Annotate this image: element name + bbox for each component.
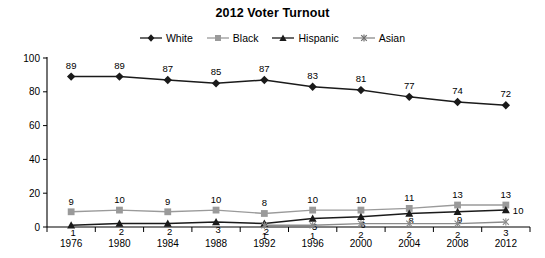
data-label: 9 [69, 196, 74, 207]
data-label: 3 [215, 224, 220, 235]
data-point-diamond [405, 93, 413, 101]
data-label: 10 [307, 194, 318, 205]
data-point-square [309, 207, 316, 214]
data-point-square [213, 207, 220, 214]
x-tick-label: 2004 [398, 238, 421, 249]
data-label: 13 [501, 189, 512, 200]
data-label: 9 [165, 196, 170, 207]
data-point-diamond [502, 101, 510, 109]
data-point-square [164, 208, 171, 215]
data-label: 10 [114, 194, 125, 205]
data-point-diamond [357, 86, 365, 94]
y-tick-label: 40 [29, 154, 41, 165]
data-label: 2 [358, 229, 363, 240]
data-label: 10 [356, 194, 367, 205]
x-tick-label: 1988 [205, 238, 228, 249]
data-point-diamond [212, 79, 220, 87]
data-point-diamond [453, 98, 461, 106]
data-point-diamond [308, 83, 316, 91]
y-tick-label: 20 [29, 188, 41, 199]
data-point-diamond [164, 76, 172, 84]
x-tick-label: 2008 [446, 238, 469, 249]
data-label: 8 [262, 197, 267, 208]
y-tick-label: 0 [34, 222, 40, 233]
data-label: 74 [452, 85, 463, 96]
chart-container: 2012 Voter Turnout White Black [0, 0, 545, 258]
data-label: 81 [356, 73, 367, 84]
data-point-square [116, 207, 123, 214]
data-label: 1 [310, 230, 315, 241]
data-label: 77 [404, 80, 415, 91]
data-label: 85 [211, 66, 222, 77]
data-point-diamond [115, 72, 123, 80]
plot-area: 0204060801001976198019841988199219962000… [0, 0, 545, 258]
x-tick-label: 1976 [60, 238, 83, 249]
data-label: 10 [211, 194, 222, 205]
y-tick-label: 80 [29, 86, 41, 97]
data-label: 89 [114, 60, 125, 71]
x-tick-label: 1984 [157, 238, 180, 249]
data-label: 10 [513, 205, 524, 216]
data-label: 72 [501, 88, 512, 99]
data-label: 1 [262, 230, 267, 241]
series-line [264, 222, 506, 225]
y-tick-label: 100 [23, 53, 40, 64]
data-label: 87 [162, 63, 173, 74]
data-label: 87 [259, 63, 270, 74]
x-tick-label: 1980 [108, 238, 131, 249]
data-label: 3 [503, 227, 508, 238]
data-point-square [68, 208, 75, 215]
data-point-square [454, 202, 461, 209]
data-point-square [358, 207, 365, 214]
x-tick-label: 2012 [495, 238, 518, 249]
data-point-square [261, 210, 268, 217]
data-label: 2 [455, 229, 460, 240]
data-label: 89 [66, 60, 77, 71]
data-label: 1 [71, 227, 76, 238]
data-point-diamond [260, 76, 268, 84]
data-label: 2 [407, 229, 412, 240]
data-label: 83 [307, 70, 318, 81]
y-tick-label: 60 [29, 120, 41, 131]
data-label: 13 [452, 189, 463, 200]
series-white: 89898785878381777472 [66, 60, 511, 110]
x-tick-label: 2000 [350, 238, 373, 249]
data-label: 2 [119, 226, 124, 237]
data-point-diamond [67, 72, 75, 80]
series-line [71, 77, 506, 106]
data-label: 2 [167, 226, 172, 237]
data-label: 11 [404, 192, 414, 203]
